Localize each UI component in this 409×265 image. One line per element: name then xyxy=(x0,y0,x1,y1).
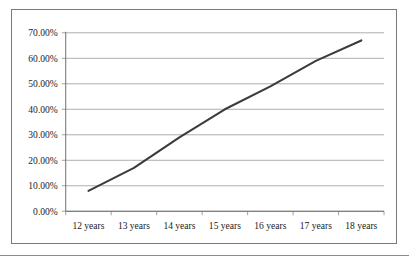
x-tick-label: 18 years xyxy=(345,221,377,231)
y-tick-label: 30.00% xyxy=(28,130,57,140)
y-tick-label: 10.00% xyxy=(28,181,57,191)
x-axis-tick-labels: 12 years13 years14 years15 years16 years… xyxy=(72,221,377,231)
y-tick-label: 60.00% xyxy=(28,54,57,64)
line-chart: 0.00%10.00%20.00%30.00%40.00%50.00%60.00… xyxy=(12,10,396,243)
data-series-line xyxy=(88,40,361,190)
x-tick-label: 17 years xyxy=(300,221,332,231)
x-tick-label: 13 years xyxy=(118,221,150,231)
y-tick-label: 20.00% xyxy=(28,156,57,166)
chart-plot-container: 0.00%10.00%20.00%30.00%40.00%50.00%60.00… xyxy=(12,10,396,243)
y-tick-label: 70.00% xyxy=(28,28,57,38)
gridlines-group xyxy=(62,33,384,211)
axis-ticks-group xyxy=(66,211,384,215)
chart-figure-frame: 0.00%10.00%20.00%30.00%40.00%50.00%60.00… xyxy=(11,9,397,244)
y-tick-label: 50.00% xyxy=(28,79,57,89)
x-tick-label: 12 years xyxy=(72,221,104,231)
x-tick-label: 14 years xyxy=(163,221,195,231)
y-tick-label: 40.00% xyxy=(28,105,57,115)
y-axis-tick-labels: 0.00%10.00%20.00%30.00%40.00%50.00%60.00… xyxy=(28,28,57,216)
horizontal-rule xyxy=(0,255,409,256)
x-tick-label: 15 years xyxy=(209,221,241,231)
y-tick-label: 0.00% xyxy=(33,207,58,217)
x-tick-label: 16 years xyxy=(254,221,286,231)
